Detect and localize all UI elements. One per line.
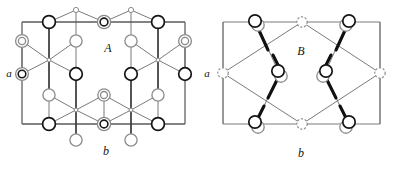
panel-b-diagonals	[223, 22, 380, 124]
node-hub-low-right	[129, 108, 133, 112]
node-pair-top-right	[340, 15, 355, 31]
node-top-mid-ring-inner	[100, 18, 108, 26]
node-bot-mid-ring-inner	[100, 120, 108, 128]
node-top-mid-dashed	[297, 17, 307, 27]
node-bot-right-dark	[152, 118, 165, 131]
node-top-right-dark	[152, 16, 165, 29]
node-hub-low-left	[74, 108, 78, 112]
panel-a-frame	[22, 22, 185, 124]
panel-a-lower-left-hub-edges	[49, 74, 104, 140]
node-mid-left-ring-inner	[18, 70, 26, 78]
panel-b-nodes	[218, 15, 385, 133]
node-pair-bot-left	[249, 116, 264, 133]
node-lower-right-light	[152, 89, 164, 101]
node-bot-left-dark	[43, 118, 56, 131]
panel-a-label: A	[103, 41, 112, 55]
panel-b-bottom-label-b: b	[298, 146, 304, 160]
node-pair-bot-right	[340, 116, 355, 133]
node-left-a-dashed	[218, 68, 228, 78]
node-top-left-dark	[43, 16, 56, 29]
node-upper-right-light	[125, 35, 137, 47]
node-upper-left-ring-inner	[18, 37, 25, 44]
panel-b-label: B	[297, 44, 305, 58]
node-pair-mid-right	[317, 65, 332, 82]
panel-a-bottom-label-b: b	[103, 144, 109, 158]
figure-root: A a b	[0, 0, 398, 169]
panel-a-lower-right-hub-edges	[104, 74, 158, 140]
node-bot-apex-left-light	[70, 134, 82, 146]
panel-b-frame	[223, 22, 380, 124]
node-pair-mid-left	[272, 65, 287, 82]
node-bot-apex-right-light	[125, 134, 137, 146]
node-bot-mid-dashed-b	[297, 119, 307, 129]
node-lower-mid-ring-inner	[101, 92, 108, 99]
node-top-apex-right	[128, 7, 133, 12]
diagram-panel-b: B a b	[198, 0, 398, 169]
node-pair-top-left	[249, 15, 264, 31]
node-upper-left-light	[70, 35, 82, 47]
node-mid-right-dark	[125, 68, 138, 81]
node-hub-right	[156, 58, 160, 62]
node-top-apex-left	[73, 7, 78, 12]
panel-a-nodes	[16, 7, 192, 146]
node-upper-right-ring-inner	[181, 37, 188, 44]
panel-b-frame-connectors	[223, 22, 380, 124]
panel-a-side-edges	[22, 22, 185, 124]
node-hub-left	[47, 58, 51, 62]
panel-b-heavy-bonds	[257, 26, 347, 120]
node-mid-left-dark	[70, 68, 83, 81]
panel-a-side-label-a: a	[6, 67, 12, 79]
panel-b-side-label-a: a	[204, 67, 210, 79]
diagram-panel-a: A a b	[0, 0, 198, 169]
node-right-a-dashed	[375, 68, 385, 78]
node-lower-left-light	[43, 89, 55, 101]
node-mid-right-edge-dark	[179, 68, 192, 81]
